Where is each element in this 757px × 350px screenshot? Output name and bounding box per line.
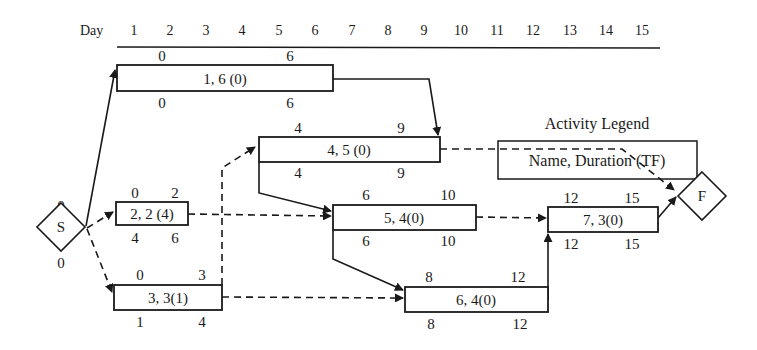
activity-text: 1, 6 (0): [203, 71, 247, 88]
activity-text: 2, 2 (4): [130, 206, 174, 223]
start-node: 0 S 0: [37, 198, 85, 271]
edge-7-f: [658, 197, 676, 218]
activity-ef: 9: [397, 120, 405, 136]
activity-text: 6, 4(0): [456, 292, 496, 309]
activity-es: 0: [158, 48, 166, 64]
activity-ef: 10: [441, 187, 456, 203]
activity-es: 8: [425, 269, 433, 285]
activity-1: 0 6 1, 6 (0) 0 6: [117, 48, 333, 111]
activity-2: 0 2 2, 2 (4) 4 6: [116, 185, 188, 246]
activity-ef: 12: [511, 269, 526, 285]
activity-ls: 8: [427, 316, 435, 332]
activity-ls: 12: [564, 236, 579, 252]
day-axis: Day 1 2 3 4 5 6 7 8 9 10 11 12 13 14 15: [80, 23, 660, 48]
activity-lf: 15: [625, 236, 640, 252]
network-diagram: Day 1 2 3 4 5 6 7 8 9 10 11 12 13 14 15 …: [0, 0, 757, 350]
activity-ef: 3: [198, 267, 206, 283]
axis-tick: 1: [131, 23, 138, 38]
axis-tick: 12: [526, 23, 540, 38]
activity-ls: 0: [158, 95, 166, 111]
edge-s-1: [86, 70, 115, 226]
activity-es: 6: [362, 187, 370, 203]
axis-tick: 14: [599, 23, 613, 38]
activity-3: 0 3 3, 3(1) 1 4: [114, 267, 222, 330]
legend-title: Activity Legend: [545, 115, 649, 133]
activity-lf: 10: [441, 233, 456, 249]
edge-s-2: [87, 212, 113, 228]
activity-7: 12 15 7, 3(0) 12 15: [548, 190, 658, 252]
edge-2-5: [188, 214, 331, 216]
edge-3-4: [222, 147, 255, 285]
activity-6: 8 12 6, 4(0) 8 12: [405, 269, 548, 332]
activity-legend: Activity Legend Name, Duration (TF): [498, 115, 697, 179]
start-ls: 0: [57, 255, 65, 271]
activity-text: 4, 5 (0): [327, 142, 371, 159]
axis-tick: 4: [239, 23, 246, 38]
activity-5: 6 10 5, 4(0) 6 10: [333, 187, 476, 249]
activity-lf: 6: [171, 230, 179, 246]
activity-ef: 15: [625, 190, 640, 206]
edge-3-6: [222, 297, 403, 298]
activity-ls: 1: [136, 314, 144, 330]
axis-tick: 8: [385, 23, 392, 38]
activity-lf: 4: [198, 314, 206, 330]
axis-tick: 5: [276, 23, 283, 38]
axis-tick: 7: [349, 23, 356, 38]
activity-text: 5, 4(0): [384, 210, 424, 227]
activity-ef: 2: [171, 185, 179, 201]
activity-lf: 12: [513, 316, 528, 332]
start-label: S: [57, 219, 65, 235]
activity-es: 0: [136, 267, 144, 283]
axis-label: Day: [80, 23, 103, 38]
activity-4: 4 9 4, 5 (0) 4 9: [259, 120, 440, 181]
activity-es: 4: [294, 120, 302, 136]
edge-1-4: [333, 79, 438, 135]
axis-tick: 3: [203, 23, 210, 38]
edge-5-7: [476, 217, 546, 218]
activity-text: 7, 3(0): [583, 212, 623, 229]
activity-ls: 4: [294, 165, 302, 181]
edge-s-3: [87, 229, 112, 292]
activity-lf: 6: [286, 95, 294, 111]
activity-lf: 9: [397, 165, 405, 181]
axis-tick: 9: [421, 23, 428, 38]
axis-tick: 13: [563, 23, 577, 38]
activity-es: 12: [564, 190, 579, 206]
finish-label: F: [698, 188, 706, 204]
legend-format: Name, Duration (TF): [529, 152, 665, 170]
activity-text: 3, 3(1): [148, 290, 188, 307]
axis-tick: 6: [312, 23, 319, 38]
axis-tick: 15: [635, 23, 649, 38]
axis-tick: 2: [167, 23, 174, 38]
activity-ls: 4: [131, 230, 139, 246]
activity-es: 0: [131, 185, 139, 201]
axis-tick: 10: [454, 23, 468, 38]
axis-line: [117, 47, 660, 48]
activity-ls: 6: [362, 233, 370, 249]
axis-tick: 11: [490, 23, 503, 38]
activity-ef: 6: [286, 48, 294, 64]
